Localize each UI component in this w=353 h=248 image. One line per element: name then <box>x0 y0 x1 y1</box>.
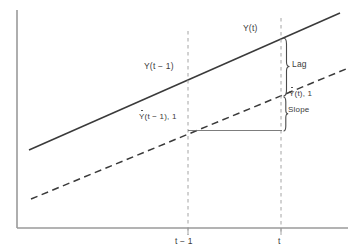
tick-label-t-minus-1: t − 1 <box>175 237 193 246</box>
figure-canvas: Y(t) Y(t − 1) Y(t), 1 Y(t − 1), 1 Lag Sl… <box>0 0 353 248</box>
label-yhat-t-1: Y(t), 1 <box>289 90 312 98</box>
accent-dot-icon <box>141 110 143 112</box>
tick-label-t: t <box>278 237 281 246</box>
label-slope: Slope <box>288 106 309 114</box>
lag-brace <box>284 38 290 96</box>
yhat-t-head: Y <box>289 89 295 98</box>
accent-wrapper-yhat-t: Y <box>289 90 295 98</box>
accent-dot-icon <box>291 87 293 89</box>
diagram-svg <box>0 0 353 248</box>
slope-brace <box>284 97 289 131</box>
yhat-tm1-tail: (t − 1), 1 <box>145 112 177 121</box>
yhat-tm1-head: Y <box>139 112 145 121</box>
label-y-t-minus-1: Y(t − 1) <box>144 62 174 71</box>
accent-wrapper-yhat-tm1: Y <box>139 113 145 121</box>
label-yhat-t-minus-1-1: Y(t − 1), 1 <box>139 113 177 121</box>
label-y-t: Y(t) <box>243 24 258 33</box>
yhat-t-tail: (t), 1 <box>295 89 313 98</box>
label-lag: Lag <box>292 60 307 69</box>
actual-series-line <box>29 13 340 150</box>
